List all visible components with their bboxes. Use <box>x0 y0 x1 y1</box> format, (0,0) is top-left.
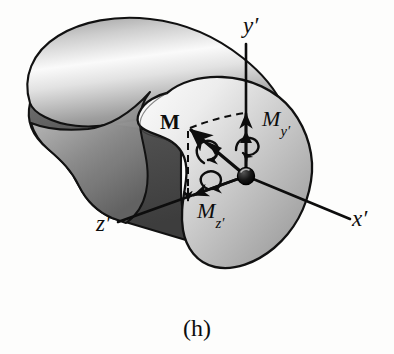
figure-caption: (h) <box>0 316 394 340</box>
axis-label-z-prime: z′ <box>96 212 110 235</box>
moment-vector-label-M: M <box>160 112 180 133</box>
axis-label-y-prime: y′ <box>243 14 258 37</box>
origin-point-marker <box>237 167 254 184</box>
diagram-canvas <box>0 0 394 354</box>
axis-label-x-prime: x′ <box>352 207 367 230</box>
moment-component-label-Mz: Mz′ <box>197 200 224 226</box>
moment-component-label-My: My′ <box>262 108 290 134</box>
body-solid <box>27 18 312 268</box>
figure-container: y′ x′ z′ M My′ Mz′ (h) <box>0 0 394 354</box>
